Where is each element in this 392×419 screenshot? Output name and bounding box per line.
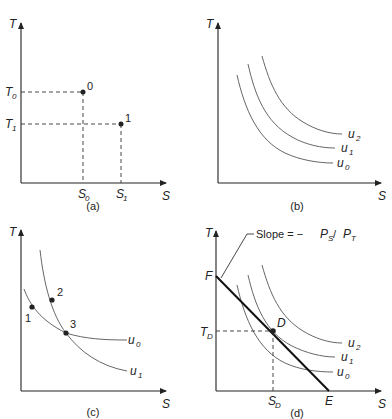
curve-label-u2: u 2 — [348, 336, 361, 352]
indifference-curve-u1 — [40, 250, 127, 371]
svg-text:1: 1 — [349, 148, 353, 157]
caption-a: (a) — [86, 200, 99, 212]
curve-label-u2: u 2 — [348, 127, 361, 143]
point-0-label: 0 — [87, 80, 93, 92]
intercept-e-label: E — [325, 394, 334, 408]
point-1 — [119, 122, 124, 127]
point-d-label: D — [277, 316, 286, 330]
tick-sd: S D — [268, 394, 281, 410]
indifference-curve-u0 — [24, 289, 127, 340]
tick-td: T D — [200, 325, 213, 341]
svg-text:P: P — [320, 227, 328, 241]
tick-t0: T 0 — [5, 85, 17, 101]
svg-text:u: u — [348, 336, 355, 350]
svg-text:2: 2 — [355, 134, 361, 143]
svg-text:Slope = −: Slope = − — [256, 228, 303, 240]
x-axis-label: S — [162, 397, 170, 411]
svg-text:u: u — [341, 350, 348, 364]
intercept-f-label: F — [205, 269, 213, 283]
panel-c: T S 1 2 3 u 0 u 1 (c) — [9, 225, 170, 418]
svg-text:u: u — [337, 156, 344, 170]
y-axis-label: T — [206, 17, 215, 31]
svg-text:0: 0 — [12, 92, 17, 101]
x-axis-label: S — [378, 189, 386, 203]
curve-label-u1: u 1 — [341, 141, 353, 157]
panel-d: T S D F E T D S D Slope = − P S / P T — [200, 226, 386, 419]
svg-text:P: P — [343, 227, 351, 241]
point-1-label: 1 — [25, 312, 31, 324]
point-1-label: 1 — [125, 112, 131, 124]
curve-label-u1: u 1 — [130, 364, 142, 380]
panel-a: T S 0 1 T 0 T 1 S 0 S 1 (a) — [5, 17, 170, 212]
svg-text:1: 1 — [123, 194, 127, 203]
svg-text:0: 0 — [345, 372, 350, 381]
x-axis-label: S — [378, 397, 386, 411]
figure-canvas: T S 0 1 T 0 T 1 S 0 S 1 (a) T S — [0, 0, 392, 419]
slope-label: Slope = − P S / P T — [256, 227, 357, 243]
point-3 — [63, 330, 68, 335]
svg-text:u: u — [341, 141, 348, 155]
point-0 — [81, 90, 86, 95]
svg-text:u: u — [128, 333, 135, 347]
point-d — [270, 328, 276, 334]
svg-text:1: 1 — [12, 124, 16, 133]
curve-label-u0: u 0 — [128, 333, 141, 349]
svg-text:u: u — [130, 364, 137, 378]
svg-text:1: 1 — [349, 357, 353, 366]
y-axis-label: T — [205, 226, 214, 240]
caption-c: (c) — [87, 406, 100, 418]
point-3-label: 3 — [70, 318, 76, 330]
svg-text:u: u — [337, 365, 344, 379]
point-2-label: 2 — [57, 286, 63, 298]
indifference-curve-u0 — [237, 75, 333, 163]
indifference-curve-u1 — [248, 64, 335, 148]
indifference-curve-u1 — [248, 275, 335, 357]
panel-b: T S u 2 u 1 u 0 (b) — [206, 17, 386, 212]
svg-text:/: / — [333, 228, 337, 240]
curve-label-u0: u 0 — [337, 156, 350, 172]
svg-text:T: T — [351, 234, 357, 243]
svg-text:2: 2 — [355, 343, 361, 352]
y-axis-label: T — [9, 225, 18, 239]
curve-label-u1: u 1 — [341, 350, 353, 366]
svg-text:D: D — [275, 401, 281, 410]
slope-leader-line — [221, 234, 254, 278]
svg-text:1: 1 — [138, 371, 142, 380]
svg-text:D: D — [207, 332, 213, 341]
point-1 — [29, 304, 34, 309]
tick-t1: T 1 — [5, 117, 16, 133]
svg-text:0: 0 — [345, 163, 350, 172]
x-axis-label: S — [162, 189, 170, 203]
caption-d: (d) — [290, 407, 303, 419]
svg-text:u: u — [348, 127, 355, 141]
curve-label-u0: u 0 — [337, 365, 350, 381]
point-2 — [49, 297, 54, 302]
svg-text:0: 0 — [136, 340, 141, 349]
caption-b: (b) — [290, 200, 303, 212]
y-axis-label: T — [9, 17, 18, 31]
tick-s1: S 1 — [116, 187, 127, 203]
